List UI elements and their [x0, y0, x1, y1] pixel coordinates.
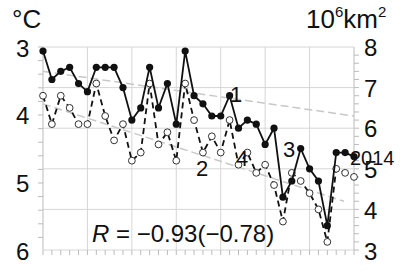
left-tick-5: 5 — [16, 172, 29, 196]
series-2-label: 2 — [196, 158, 208, 180]
r-symbol: R — [92, 220, 109, 247]
unit-suffix: km — [343, 4, 378, 34]
right-tick-6: 6 — [364, 117, 377, 141]
left-axis-unit: °C — [12, 6, 41, 32]
right-tick-4: 4 — [364, 199, 377, 223]
right-axis-unit: 106km2 — [306, 6, 386, 32]
series-1-label: 1 — [230, 84, 242, 106]
left-tick-6: 6 — [16, 240, 29, 264]
series-3-label: 3 — [283, 139, 295, 161]
series-4-label: 4 — [236, 148, 248, 170]
r-value: = −0.93(−0.78) — [109, 220, 274, 247]
right-tick-7: 7 — [364, 77, 377, 101]
unit-suffix-exponent: 2 — [378, 3, 386, 20]
left-tick-4: 4 — [16, 104, 29, 128]
left-tick-3: 3 — [16, 37, 29, 61]
degree-celsius-label: °C — [12, 4, 41, 34]
unit-base: 10 — [306, 4, 335, 34]
year-2014-label: 2014 — [350, 148, 395, 168]
unit-exponent: 6 — [335, 3, 343, 20]
correlation-label: R = −0.93(−0.78) — [92, 222, 274, 246]
right-tick-3: 3 — [364, 240, 377, 264]
right-tick-8: 8 — [364, 36, 377, 60]
